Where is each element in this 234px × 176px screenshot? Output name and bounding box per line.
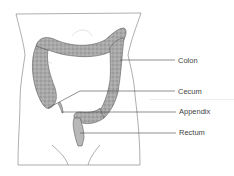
label-rectum: Rectum: [179, 129, 205, 137]
large-intestine: [32, 28, 126, 146]
scan-artifact-line: [150, 99, 234, 100]
label-appendix: Appendix: [179, 108, 210, 116]
label-cecum: Cecum: [178, 88, 202, 96]
label-colon: Colon: [178, 57, 198, 65]
ascending-colon: [32, 46, 56, 108]
appendix-shape: [58, 102, 63, 113]
